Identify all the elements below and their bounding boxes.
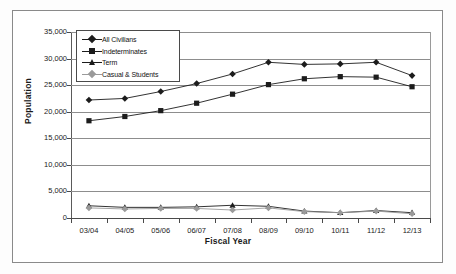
legend-label-casual-students: Casual & Students bbox=[102, 71, 158, 78]
legend-label-all-civilians: All Civilians bbox=[102, 36, 137, 43]
legend-label-term: Term bbox=[102, 59, 117, 66]
legend-swatch-all-civilians bbox=[82, 34, 102, 45]
x-axis-tick-mark bbox=[251, 219, 252, 223]
diamond-marker-icon bbox=[88, 35, 96, 43]
legend-swatch-casual-students bbox=[82, 69, 102, 80]
y-axis-tick-mark bbox=[67, 112, 71, 113]
y-axis-tick-labels: 05,00010,00015,00020,00025,00030,00035,0… bbox=[20, 0, 67, 274]
y-axis-tick-mark bbox=[67, 165, 71, 166]
x-axis-tick-mark bbox=[358, 219, 359, 223]
x-axis-tick-mark bbox=[430, 219, 431, 223]
diamond-light-marker-icon bbox=[88, 70, 96, 78]
legend-item-all-civilians: All Civilians bbox=[82, 34, 175, 46]
y-axis-tick-mark bbox=[67, 85, 71, 86]
legend-item-casual-students: Casual & Students bbox=[82, 69, 175, 81]
y-axis-tick-label: 5,000 bbox=[23, 186, 67, 195]
legend-item-term: Term bbox=[82, 57, 175, 69]
y-axis-tick-label: 0 bbox=[23, 213, 67, 222]
chart-legend: All Civilians Indeterminates Term Casual… bbox=[76, 30, 180, 82]
y-axis-tick-label: 15,000 bbox=[23, 133, 67, 142]
x-axis-tick-mark bbox=[179, 219, 180, 223]
triangle-marker-icon bbox=[89, 59, 95, 65]
gridline bbox=[71, 138, 430, 139]
x-axis-tick-mark bbox=[215, 219, 216, 223]
chart-figure: Population Fiscal Year 05,00010,00015,00… bbox=[0, 0, 456, 274]
square-marker-icon bbox=[89, 48, 95, 54]
x-axis-tick-mark bbox=[143, 219, 144, 223]
x-axis-tick-mark bbox=[322, 219, 323, 223]
legend-label-indeterminates: Indeterminates bbox=[102, 48, 147, 55]
gridline bbox=[71, 85, 430, 86]
y-axis-tick-mark bbox=[67, 59, 71, 60]
legend-swatch-indeterminates bbox=[82, 46, 102, 57]
x-axis-title: Fiscal Year bbox=[0, 236, 456, 246]
x-axis-tick-mark bbox=[394, 219, 395, 223]
y-axis-tick-label: 20,000 bbox=[23, 107, 67, 116]
y-axis-tick-label: 30,000 bbox=[23, 54, 67, 63]
x-axis-tick-mark bbox=[107, 219, 108, 223]
gridline bbox=[71, 165, 430, 166]
x-axis-tick-label: 12/13 bbox=[389, 226, 435, 235]
y-axis-tick-label: 10,000 bbox=[23, 160, 67, 169]
legend-item-indeterminates: Indeterminates bbox=[82, 46, 175, 58]
x-axis-tick-mark bbox=[71, 219, 72, 223]
y-axis-tick-label: 25,000 bbox=[23, 80, 67, 89]
y-axis-tick-mark bbox=[67, 138, 71, 139]
gridline bbox=[71, 112, 430, 113]
legend-swatch-term bbox=[82, 57, 102, 68]
x-axis-tick-mark bbox=[286, 219, 287, 223]
y-axis-tick-label: 35,000 bbox=[23, 27, 67, 36]
y-axis-tick-mark bbox=[67, 191, 71, 192]
y-axis-tick-mark bbox=[67, 32, 71, 33]
gridline bbox=[71, 191, 430, 192]
plot-axis-right bbox=[430, 32, 431, 219]
